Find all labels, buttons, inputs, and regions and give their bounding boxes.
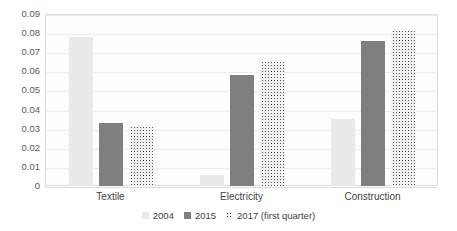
legend-item[interactable]: 2004: [142, 211, 174, 221]
legend-swatch-icon: [142, 212, 149, 219]
bar: [99, 123, 123, 186]
legend: 200420152017 (first quarter): [0, 211, 457, 221]
bar-chart: 00.010.020.030.040.050.060.070.080.09 Te…: [0, 0, 457, 231]
y-axis-tick-label: 0.03: [0, 124, 40, 134]
bar-group: [45, 14, 176, 186]
legend-item[interactable]: 2015: [184, 211, 216, 221]
y-axis-tick-label: 0.05: [0, 86, 40, 96]
bar: [200, 175, 224, 186]
bar-group: [176, 14, 307, 186]
y-axis-tick-label: 0.06: [0, 67, 40, 77]
legend-swatch-icon: [184, 212, 191, 219]
gridline: [46, 187, 437, 188]
bar: [69, 37, 93, 186]
bar: [331, 119, 355, 186]
x-axis-tick-label: Electricity: [220, 190, 263, 204]
bar: [391, 31, 415, 186]
legend-label: 2015: [195, 211, 216, 221]
x-axis-tick-label: Textile: [96, 190, 124, 204]
y-axis-tick-label: 0.07: [0, 47, 40, 57]
bars-layer: [45, 14, 438, 186]
y-axis-tick-label: 0.02: [0, 143, 40, 153]
bar: [361, 41, 385, 186]
legend-label: 2004: [153, 211, 174, 221]
bar-group: [307, 14, 438, 186]
legend-swatch-icon: [226, 212, 233, 219]
bar: [129, 127, 153, 186]
y-axis-tick-label: 0: [0, 181, 40, 191]
bar: [230, 75, 254, 186]
y-axis-tick-label: 0.08: [0, 28, 40, 38]
y-axis: 00.010.020.030.040.050.060.070.080.09: [0, 14, 40, 186]
y-axis-tick-label: 0.09: [0, 9, 40, 19]
y-axis-tick-label: 0.04: [0, 105, 40, 115]
legend-label: 2017 (first quarter): [237, 211, 315, 221]
x-axis-tick-label: Construction: [344, 190, 400, 204]
y-axis-tick-label: 0.01: [0, 162, 40, 172]
x-axis: TextileElectricityConstruction: [45, 190, 438, 206]
legend-item[interactable]: 2017 (first quarter): [226, 211, 315, 221]
bar: [260, 62, 284, 186]
